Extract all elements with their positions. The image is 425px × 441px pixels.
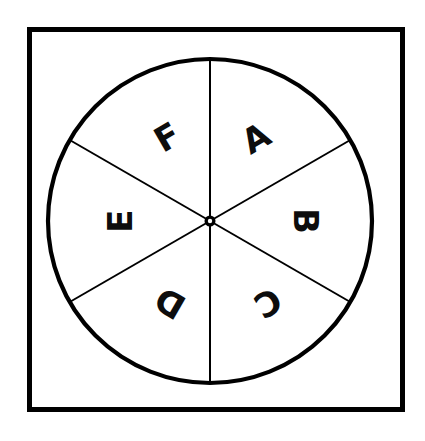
spinner-hub-center (208, 219, 212, 223)
sector-label-b: B (286, 208, 326, 234)
spinner-wheel-container: A B C D E F (0, 0, 425, 441)
sector-label-e: E (100, 209, 140, 232)
spinner-svg: A B C D E F (0, 0, 425, 441)
diagram-page: A B C D E F (0, 0, 425, 441)
